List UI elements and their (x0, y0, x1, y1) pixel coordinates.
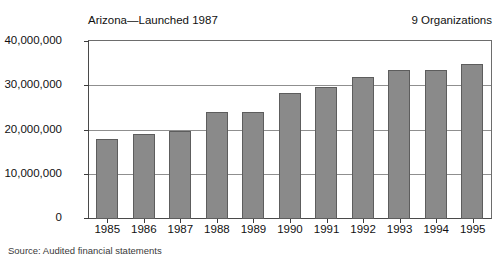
bar-1992[interactable] (352, 77, 374, 219)
x-axis-tick-label: 1991 (308, 222, 345, 236)
y-axis-tick-label: 10,000,000 (0, 167, 62, 179)
y-axis-tick-label: 40,000,000 (0, 34, 62, 46)
x-axis-tick-label: 1993 (381, 222, 418, 236)
bar-1993[interactable] (388, 70, 410, 219)
bar-slot (418, 41, 455, 219)
x-axis-tick-label: 1987 (162, 222, 199, 236)
bar-1994[interactable] (425, 70, 447, 219)
chart-subtitle: 9 Organizations (411, 13, 492, 27)
chart-title: Arizona—Launched 1987 (88, 13, 218, 27)
bar-1985[interactable] (96, 139, 118, 219)
bar-slot (199, 41, 236, 219)
y-axis-tick-label: 20,000,000 (0, 123, 62, 135)
bar-slot (345, 41, 382, 219)
chart-header: Arizona—Launched 1987 9 Organizations (88, 13, 492, 29)
bar-slot (126, 41, 163, 219)
bar-1986[interactable] (133, 134, 155, 219)
x-axis-tick-label: 1992 (345, 222, 382, 236)
bar-slot (272, 41, 309, 219)
x-axis-tick-label: 1995 (454, 222, 491, 236)
bar-1990[interactable] (279, 93, 301, 219)
bar-slot (89, 41, 126, 219)
bar-slot (454, 41, 491, 219)
bar-1995[interactable] (461, 64, 483, 219)
y-axis-tick-label: 30,000,000 (0, 78, 62, 90)
bar-1987[interactable] (169, 131, 191, 220)
x-axis-tick-label: 1986 (126, 222, 163, 236)
x-axis-tick-label: 1994 (418, 222, 455, 236)
bar-slot (235, 41, 272, 219)
bar-1991[interactable] (315, 87, 337, 219)
bar-slot (381, 41, 418, 219)
x-axis-tick-label: 1988 (199, 222, 236, 236)
x-axis-labels: 1985198619871988198919901991199219931994… (89, 222, 491, 240)
source-note: Source: Audited financial statements (8, 245, 162, 257)
bar-series (89, 41, 491, 219)
bar-slot (308, 41, 345, 219)
bar-1988[interactable] (206, 112, 228, 219)
bar-1989[interactable] (242, 112, 264, 219)
y-axis-labels: 010,000,00020,000,00030,000,00040,000,00… (0, 0, 84, 265)
y-axis-tick-label: 0 (0, 211, 62, 223)
x-axis-tick-label: 1989 (235, 222, 272, 236)
x-axis-tick-label: 1985 (89, 222, 126, 236)
bar-slot (162, 41, 199, 219)
x-axis-tick-label: 1990 (272, 222, 309, 236)
chart-figure: Arizona—Launched 1987 9 Organizations 01… (0, 0, 504, 265)
